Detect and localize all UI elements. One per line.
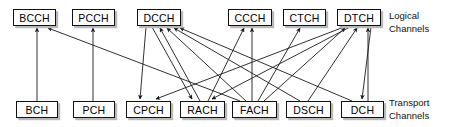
transport-channel-dch[interactable]: DCH [341, 101, 384, 118]
node-label: DCH [351, 104, 374, 116]
node-label: DCCH [143, 12, 174, 24]
connection-dtch-to-cpch [156, 27, 344, 99]
connection-fach-to-bcch [48, 28, 240, 101]
connection-rach-to-ccch [208, 28, 244, 101]
connection-dsch-to-dcch [174, 28, 300, 101]
logical-channel-bcch[interactable]: BCCH [13, 9, 56, 26]
node-label: DTCH [344, 12, 374, 24]
logical-channel-pcch[interactable]: PCCH [72, 9, 115, 26]
transport-channel-cpch[interactable]: CPCH [126, 101, 171, 118]
connection-dcch-to-rach [152, 27, 192, 99]
connection-dtch-to-dch [362, 27, 371, 99]
transport-channel-fach[interactable]: FACH [232, 101, 277, 118]
node-label: RACH [187, 104, 218, 116]
node-label: CTCH [290, 12, 320, 24]
node-label: PCH [83, 104, 106, 116]
connection-dtch-to-rach [212, 27, 350, 99]
node-label: BCH [26, 104, 49, 116]
node-label: CCCH [234, 12, 265, 24]
transport-channel-bch[interactable]: BCH [16, 101, 58, 118]
node-label: FACH [240, 104, 269, 116]
transport-channel-rach[interactable]: RACH [180, 101, 225, 118]
logical-channel-dtch[interactable]: DTCH [337, 9, 381, 26]
logical-channel-dcch[interactable]: DCCH [137, 9, 181, 26]
logical-channel-ctch[interactable]: CTCH [283, 9, 326, 26]
node-label: DSCH [293, 104, 324, 116]
connection-lines-layer [0, 0, 452, 127]
transport-channel-dsch[interactable]: DSCH [286, 101, 331, 118]
logical-channel-ccch[interactable]: CCCH [228, 9, 272, 26]
transport-channel-pch[interactable]: PCH [73, 101, 115, 118]
node-label: PCCH [78, 12, 109, 24]
node-label: BCCH [19, 12, 50, 24]
node-label: CPCH [133, 104, 164, 116]
logical-channels-label: Logical Channels [389, 10, 429, 35]
transport-channels-label: Transport Channels [389, 97, 429, 122]
channel-mapping-diagram: BCCHPCCHDCCHCCCHCTCHDTCH BCHPCHCPCHRACHF… [0, 0, 452, 127]
connection-lines [37, 27, 371, 101]
